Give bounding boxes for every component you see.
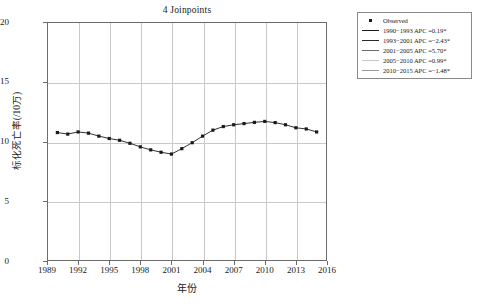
legend-key-line: [360, 50, 380, 51]
y-axis-tick-label: 10: [0, 137, 9, 146]
data-point: [180, 147, 183, 150]
chart-legend: Observed1990−1993 APC =0.19*1993−2001 AP…: [357, 12, 472, 79]
data-point: [305, 127, 308, 130]
legend-item-label: Observed: [383, 17, 408, 25]
x-axis-tick-mark: [203, 261, 204, 265]
data-point: [253, 121, 256, 124]
legend-item: 1990−1993 APC =0.19*: [360, 26, 468, 35]
x-axis-tick-mark: [296, 261, 297, 265]
legend-key-line: [360, 40, 380, 41]
y-axis-tick-label: 0: [0, 257, 9, 266]
x-axis-tick-mark: [171, 261, 172, 265]
joinpoint-chart: 4 Joinpoints 05101520 198919921995199820…: [0, 0, 340, 304]
data-point: [77, 130, 80, 133]
data-point: [159, 151, 162, 154]
trend-line: [57, 121, 316, 154]
data-point: [128, 142, 131, 145]
data-point: [108, 137, 111, 140]
data-point: [242, 122, 245, 125]
legend-key-marker: [360, 19, 380, 22]
legend-key-line: [360, 30, 380, 31]
data-point: [211, 129, 214, 132]
data-point: [315, 130, 318, 133]
data-point: [284, 123, 287, 126]
x-axis-tick-mark: [140, 261, 141, 265]
data-point: [294, 126, 297, 129]
legend-marker-icon: [369, 19, 372, 22]
x-axis-tick-label: 2016: [307, 266, 347, 275]
data-point: [97, 135, 100, 138]
legend-item: 2005−2010 APC =0.99*: [360, 56, 468, 65]
data-point: [232, 123, 235, 126]
data-point: [87, 132, 90, 135]
y-axis-tick-label: 20: [0, 18, 9, 27]
legend-item-label: 1993−2001 APC =−2.43*: [383, 37, 450, 45]
data-point: [274, 121, 277, 124]
legend-line-icon: [362, 60, 379, 61]
chart-page: 4 Joinpoints 05101520 198919921995199820…: [0, 0, 477, 304]
legend-item: Observed: [360, 16, 468, 25]
legend-line-icon: [362, 30, 379, 31]
x-axis-tick-mark: [109, 261, 110, 265]
legend-key-line: [360, 60, 380, 61]
x-axis-tick-mark: [78, 261, 79, 265]
x-axis-tick-mark: [234, 261, 235, 265]
y-axis-title: 标化死亡率(/10万): [9, 71, 23, 191]
x-axis-tick-mark: [265, 261, 266, 265]
data-point: [139, 145, 142, 148]
legend-line-icon: [362, 50, 379, 51]
data-point: [170, 152, 173, 155]
legend-item: 2010−2015 APC =−1.48*: [360, 66, 468, 75]
legend-item-label: 2010−2015 APC =−1.48*: [383, 67, 450, 75]
legend-item-label: 2001−2005 APC =5.70*: [383, 47, 446, 55]
legend-item: 1993−2001 APC =−2.43*: [360, 36, 468, 45]
legend-line-icon: [362, 70, 379, 71]
y-axis-tick-label: 5: [0, 197, 9, 206]
data-point: [263, 120, 266, 123]
legend-item: 2001−2005 APC =5.70*: [360, 46, 468, 55]
data-point: [222, 125, 225, 128]
data-point: [66, 132, 69, 135]
data-point: [191, 141, 194, 144]
legend-item-label: 1990−1993 APC =0.19*: [383, 27, 446, 35]
data-point: [118, 139, 121, 142]
x-axis-title: 年份: [47, 280, 327, 295]
observed-series: [47, 22, 327, 261]
legend-item-label: 2005−2010 APC =0.99*: [383, 57, 446, 65]
legend-key-line: [360, 70, 380, 71]
x-axis-tick-mark: [47, 261, 48, 265]
data-point: [201, 135, 204, 138]
chart-title: 4 Joinpoints: [47, 5, 327, 15]
legend-line-icon: [362, 40, 379, 41]
data-point: [149, 148, 152, 151]
y-axis-tick-label: 15: [0, 77, 9, 86]
data-point: [56, 131, 59, 134]
x-axis-tick-mark: [327, 261, 328, 265]
